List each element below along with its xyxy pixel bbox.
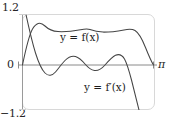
curve-f [23, 23, 154, 65]
plot-canvas [0, 0, 170, 123]
function-derivative-figure: 1.2 0 −1.2 π y = f(x) [0, 0, 170, 123]
curve-f-prime [25, 10, 140, 112]
curve-f-prime-annotation: y = f′(x) [84, 81, 126, 93]
curve-f-annotation: y = f(x) [60, 31, 99, 43]
